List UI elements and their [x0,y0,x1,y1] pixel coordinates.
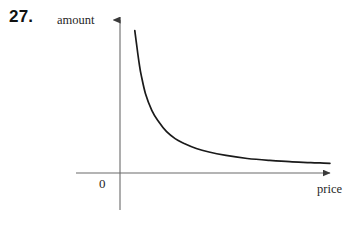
plot-area [0,0,362,225]
demand-curve [135,31,330,164]
figure-container: 27. amount price 0 [0,0,362,225]
